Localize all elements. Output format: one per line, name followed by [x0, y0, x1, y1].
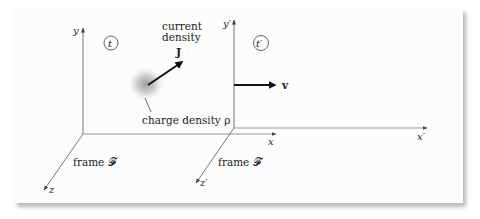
current-caption-line2: density [162, 31, 201, 43]
frame-f-label: frame 𝓕 [73, 156, 118, 168]
charge-pointer-line [145, 98, 151, 112]
charge-density-label: charge density ρ [142, 114, 230, 126]
y-axis-label: y [72, 25, 79, 36]
time-label-t: t [108, 38, 113, 49]
y-prime-axis-label: y′ [222, 18, 232, 29]
x-prime-axis-label: x′ [417, 131, 426, 142]
x-axis-label: x [268, 136, 274, 147]
z-prime-axis-label: z′ [199, 177, 208, 188]
velocity-symbol: v [281, 79, 289, 91]
time-label-t-prime: t′ [256, 38, 263, 49]
current-density-symbol: J [175, 46, 181, 59]
frame-f-prime-label: frame 𝓕′ [218, 156, 264, 168]
z-axis-label: z [48, 184, 55, 195]
relativity-frames-diagram: t t′ y y′ x x′ z z′ current density J ch… [0, 0, 480, 219]
charge-cloud [129, 68, 163, 100]
